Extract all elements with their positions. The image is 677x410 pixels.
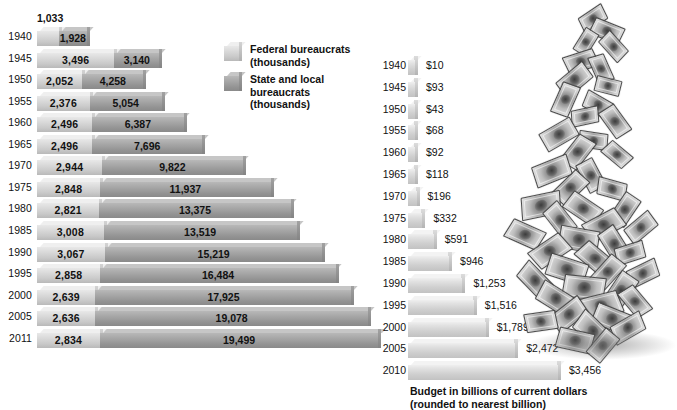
legend-item-state-local: State and local bureaucrats (thousands) <box>224 74 384 104</box>
budget-row-year-label: 1970 <box>378 190 406 202</box>
state-local-segment-value: 17,925 <box>95 290 351 305</box>
row-year-label: 1940 <box>0 30 32 42</box>
row-year-label: 1960 <box>0 116 32 128</box>
state-local-segment-value: 19,499 <box>100 333 379 348</box>
row-year-label: 1975 <box>0 181 32 193</box>
state-local-segment: 15,219 <box>105 247 322 262</box>
row-year-label: 1965 <box>0 138 32 150</box>
federal-segment: 3,067 <box>37 247 105 262</box>
federal-segment-value: 1,033 <box>37 12 63 24</box>
state-local-segment: 11,937 <box>100 182 271 197</box>
chart-legend: Federal bureaucrats (thousands) State an… <box>224 44 384 104</box>
state-local-segment: 4,258 <box>82 74 143 89</box>
state-local-segment-value: 9,822 <box>102 160 242 175</box>
state-local-segment: 7,696 <box>92 139 202 154</box>
legend-label-federal-line1: Federal bureaucrats <box>250 43 350 55</box>
budget-row-year-label: 1940 <box>378 59 406 71</box>
budget-chart-caption: Budget in billions of current dollars (r… <box>410 385 660 410</box>
federal-segment <box>37 31 59 46</box>
legend-label-federal: Federal bureaucrats (thousands) <box>250 43 350 68</box>
state-local-segment: 1,928 <box>59 31 87 46</box>
budget-bar-fill <box>408 234 434 249</box>
budget-row-year-label: 1965 <box>378 168 406 180</box>
budget-bar-value: $93 <box>426 81 444 93</box>
state-local-segment-value: 11,937 <box>100 182 271 197</box>
row-year-label: 1945 <box>0 52 32 64</box>
budget-bar-value: $43 <box>426 103 444 115</box>
state-local-segment-value: 13,375 <box>99 203 290 218</box>
state-local-segment: 19,078 <box>95 311 368 326</box>
state-local-segment: 13,519 <box>104 225 297 240</box>
state-local-segment-value: 13,519 <box>104 225 297 240</box>
row-year-label: 2011 <box>0 332 32 344</box>
state-local-segment-value: 4,258 <box>82 74 143 89</box>
budget-row-year-label: 1960 <box>378 146 406 158</box>
budget-row-year-label: 1990 <box>378 277 406 289</box>
row-year-label: 1980 <box>0 202 32 214</box>
state-local-segment: 9,822 <box>102 160 242 175</box>
state-local-segment-value: 6,387 <box>92 117 183 132</box>
budget-row-year-label: 1945 <box>378 81 406 93</box>
budget-row-year-label: 2005 <box>378 342 406 354</box>
federal-segment: 2,376 <box>37 96 90 111</box>
budget-bar-value: $92 <box>426 146 444 158</box>
federal-segment-value: 2,636 <box>37 311 95 326</box>
budget-row-year-label: 1955 <box>378 124 406 136</box>
state-local-segment: 6,387 <box>92 117 183 132</box>
budget-bar-fill <box>408 365 558 380</box>
budget-bar-fill <box>408 300 474 315</box>
legend-swatch-state-local <box>224 76 239 91</box>
state-local-segment-value: 19,078 <box>95 311 368 326</box>
federal-segment-value: 2,052 <box>37 74 82 89</box>
budget-row-year-label: 2000 <box>378 321 406 333</box>
budget-bar-value: $118 <box>426 168 449 180</box>
budget-bar-value: $10 <box>426 59 444 71</box>
row-year-label: 1970 <box>0 159 32 171</box>
federal-segment-value: 2,821 <box>37 203 99 218</box>
federal-segment: 2,052 <box>37 74 82 89</box>
federal-segment-value: 3,496 <box>37 53 114 68</box>
state-local-segment-value: 5,054 <box>90 96 162 111</box>
federal-segment-value: 2,834 <box>37 333 100 348</box>
legend-label-state-line2: (thousands) <box>250 98 310 110</box>
state-local-segment: 3,140 <box>114 53 159 68</box>
state-local-segment: 5,054 <box>90 96 162 111</box>
federal-segment-value: 2,376 <box>37 96 90 111</box>
budget-bar-fill <box>408 104 415 119</box>
state-local-segment-value: 3,140 <box>114 53 159 68</box>
federal-segment: 2,496 <box>37 117 92 132</box>
budget-bar-fill <box>408 256 449 271</box>
legend-label-state-local: State and local bureaucrats (thousands) <box>250 73 384 111</box>
federal-segment: 2,636 <box>37 311 95 326</box>
money-shadow <box>527 330 677 360</box>
dollar-bill-icon <box>523 310 559 333</box>
budget-bar-value: $591 <box>445 233 468 245</box>
budget-bar-fill <box>408 169 415 184</box>
state-local-segment: 19,499 <box>100 333 379 348</box>
state-local-segment: 13,375 <box>99 203 290 218</box>
budget-row-year-label: 1950 <box>378 103 406 115</box>
federal-segment: 2,858 <box>37 268 100 283</box>
falling-money-illustration <box>487 8 673 363</box>
budget-bar-value: $3,456 <box>569 364 601 376</box>
state-local-segment-value: 7,696 <box>92 139 202 154</box>
federal-segment-value: 2,858 <box>37 268 100 283</box>
federal-segment: 2,821 <box>37 203 99 218</box>
budget-caption-line1: Budget in billions of current dollars <box>410 385 587 397</box>
legend-label-state-line1: State and local bureaucrats <box>250 73 324 98</box>
budget-bar-fill <box>408 278 462 293</box>
dollar-bill-icon <box>571 105 600 128</box>
row-year-label: 1985 <box>0 224 32 236</box>
federal-segment: 2,834 <box>37 333 100 348</box>
budget-bar-fill <box>408 125 415 140</box>
row-year-label: 1990 <box>0 246 32 258</box>
row-year-label: 2000 <box>0 289 32 301</box>
budget-row-year-label: 1975 <box>378 212 406 224</box>
row-year-label: 2005 <box>0 310 32 322</box>
federal-segment-value: 2,496 <box>37 139 92 154</box>
budget-row-year-label: 1995 <box>378 299 406 311</box>
federal-segment: 2,639 <box>37 290 95 305</box>
federal-segment: 3,496 <box>37 53 114 68</box>
budget-caption-line2: (rounded to nearest billion) <box>410 398 546 410</box>
federal-segment-value: 3,067 <box>37 247 105 262</box>
